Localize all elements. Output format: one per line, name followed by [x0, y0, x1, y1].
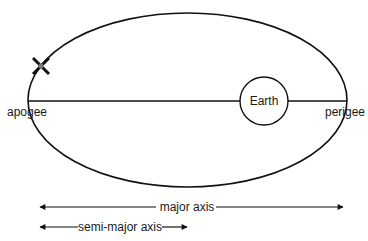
satellite-x-icon: [33, 58, 49, 74]
earth-label: Earth: [250, 94, 279, 108]
semi-major-axis-label: semi-major axis: [78, 220, 162, 234]
orbit-ellipse: [28, 13, 347, 187]
orbit-diagram: Earth apogee perigee major axis semi-maj…: [0, 0, 368, 241]
orbit-svg: Earth apogee perigee major axis semi-maj…: [0, 0, 368, 241]
perigee-label: perigee: [325, 105, 365, 119]
major-axis-label: major axis: [160, 200, 215, 214]
apogee-label: apogee: [7, 105, 47, 119]
